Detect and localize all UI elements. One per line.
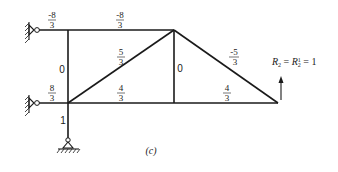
svg-text:3: 3	[50, 20, 55, 30]
svg-text:-8: -8	[48, 10, 56, 20]
figure-caption: (c)	[145, 145, 157, 157]
label-right-diagonal-force: -5 3	[229, 47, 239, 67]
svg-text:8: 8	[50, 83, 55, 93]
svg-text:3: 3	[118, 20, 123, 30]
reaction-arrow-up-icon	[279, 76, 284, 100]
svg-text:4: 4	[225, 83, 230, 93]
label-support-post-force: 1	[60, 115, 66, 126]
svg-text:-5: -5	[230, 47, 238, 57]
bottom-ground-support-icon	[57, 138, 80, 153]
svg-text:5: 5	[119, 47, 124, 57]
reaction-equation: R2 = R12 = 1	[271, 56, 317, 68]
label-middle-vertical-force: 0	[177, 63, 183, 74]
svg-text:3: 3	[50, 93, 55, 103]
svg-text:3: 3	[233, 57, 238, 67]
label-top-left-force: -8 3	[48, 10, 56, 30]
label-bottom-middle-force: 4 3	[117, 83, 125, 103]
svg-text:4: 4	[119, 83, 124, 93]
label-bottom-left-link-force: 8 3	[48, 83, 56, 103]
svg-text:3: 3	[119, 57, 124, 67]
svg-text:3: 3	[119, 93, 124, 103]
svg-text:3: 3	[225, 93, 230, 103]
svg-text:-8: -8	[116, 10, 124, 20]
truss-diagram: -8 3 -8 3 0 5 3 0 -5 3 8 3 4 3 4 3	[0, 0, 338, 172]
middle-wall-support-icon	[25, 95, 39, 116]
top-wall-support-icon	[25, 22, 39, 43]
label-top-right-force: -8 3	[116, 10, 124, 30]
label-left-vertical-force: 0	[59, 64, 65, 75]
label-bottom-right-force: 4 3	[223, 83, 231, 103]
